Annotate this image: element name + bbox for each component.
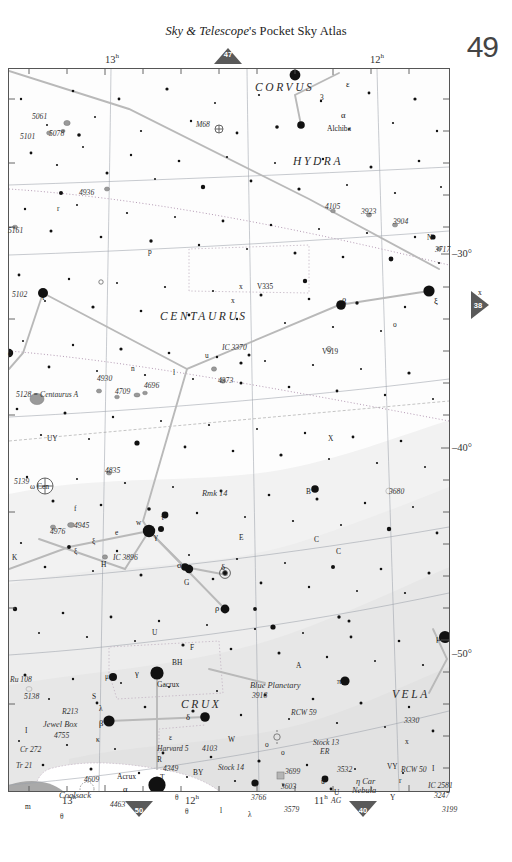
marker-bottom-right-label: 40 bbox=[359, 806, 367, 815]
deep-sky-label-37: 3766 bbox=[251, 793, 266, 802]
deep-sky-label-46: 3579 bbox=[284, 805, 299, 814]
adjacent-chart-marker-bottom-left[interactable]: 50 bbox=[124, 800, 154, 818]
adjacent-chart-marker-top[interactable]: 47 bbox=[213, 47, 243, 65]
ra-tick-bottom-13h: 13h bbox=[62, 793, 76, 806]
bayer-label-60: θ bbox=[60, 812, 64, 821]
bayer-label-72: l bbox=[220, 806, 222, 815]
deep-sky-label-50: 3247 bbox=[434, 791, 449, 800]
star-chart-canvas bbox=[9, 69, 449, 791]
bayer-label-58: θ bbox=[175, 793, 179, 802]
adjacent-chart-marker-bottom-right[interactable]: 40 bbox=[348, 800, 378, 818]
page-number: 49 bbox=[467, 30, 498, 64]
deep-sky-label-51: 3199 bbox=[442, 805, 457, 814]
star-chart[interactable] bbox=[8, 68, 450, 792]
bayer-label-61: m bbox=[25, 802, 31, 811]
ra-tick-top-12h: 12h bbox=[370, 52, 384, 65]
page-header: Sky & Telescope's Pocket Sky Atlas bbox=[0, 24, 512, 39]
atlas-title-italic: Sky & Telescope bbox=[165, 24, 249, 38]
ra-tick-bottom-11h: 11h bbox=[314, 793, 328, 806]
ra-tick-top-13h: 13h bbox=[105, 52, 119, 65]
atlas-title-rest: 's Pocket Sky Atlas bbox=[249, 24, 347, 38]
dec-tick--30: –30° bbox=[452, 248, 472, 259]
ra-tick-bottom-12h: 12h bbox=[185, 793, 199, 806]
marker-top-label: 47 bbox=[224, 50, 232, 59]
dec-tick--50: –50° bbox=[452, 648, 472, 659]
bayer-label-62: λ bbox=[248, 810, 252, 819]
bayer-label-59: θ bbox=[185, 807, 189, 816]
deep-sky-label-54: AG bbox=[331, 796, 341, 805]
adjacent-chart-marker-right[interactable]: 38 bbox=[470, 290, 490, 320]
deep-sky-label-32: 4463 bbox=[110, 800, 125, 809]
bayer-label-69: Y bbox=[390, 793, 395, 802]
marker-right-label: 38 bbox=[474, 301, 482, 310]
marker-bottom-left-label: 50 bbox=[135, 806, 143, 815]
dec-tick--40: –40° bbox=[452, 442, 472, 453]
